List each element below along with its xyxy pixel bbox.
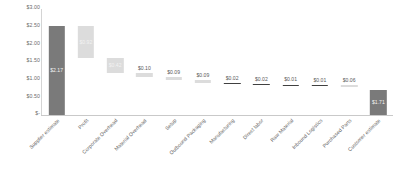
x-axis-category-label: Setup: [164, 118, 178, 132]
bar-value-label: $0.42: [109, 63, 122, 68]
bar-group: $0.01: [305, 9, 334, 115]
bar-delta: [136, 73, 152, 77]
bar-group: $0.01: [276, 9, 305, 115]
bar-delta: [195, 80, 211, 83]
bar-group: $0.06: [335, 9, 364, 115]
bar-delta: [312, 85, 328, 86]
bar-value-label: $0.09: [196, 73, 209, 78]
bar-value-label: $0.01: [313, 78, 326, 83]
bar-value-label: $2.17: [50, 68, 63, 73]
bar-delta: [341, 85, 357, 87]
y-axis-tick-label: $2.00: [6, 41, 40, 46]
y-axis-tick-label: $1.00: [6, 76, 40, 81]
bar-value-label: $0.06: [343, 78, 356, 83]
bar-group: $0.02: [247, 9, 276, 115]
x-axis-label-slot: Direct labor: [247, 116, 276, 174]
bar-group: $0.02: [218, 9, 247, 115]
bar-value-label: $0.02: [255, 77, 268, 82]
bar-delta: [224, 83, 240, 84]
bar-group: $0.42: [101, 9, 130, 115]
x-axis-label-slot: Manufacturing: [218, 116, 247, 174]
x-axis-category-label: Profit: [77, 118, 90, 131]
y-axis-tick-label: $3.00: [6, 5, 40, 10]
bar-delta: [282, 85, 298, 86]
x-axis-category-labels: Supplier estimateProfitCorporate Overhea…: [42, 116, 393, 174]
x-axis-label-slot: Material Overhead: [130, 116, 159, 174]
bar-value-label: $0.09: [167, 70, 180, 75]
bar-value-label: $0.01: [284, 77, 297, 82]
bar-group: $0.92: [71, 9, 100, 115]
y-axis-tick-label: $1.50: [6, 58, 40, 63]
x-axis-label-slot: Supplier estimate: [42, 116, 71, 174]
y-axis-tick-label: $-: [6, 111, 40, 116]
bar-group: $2.17: [42, 9, 71, 115]
bar-group: $1.71: [364, 9, 393, 115]
y-axis-tick-label: $2.50: [6, 23, 40, 28]
bar-delta: [253, 84, 269, 85]
bar-group: $0.09: [188, 9, 217, 115]
bar-group: $0.10: [130, 9, 159, 115]
x-axis-category-label: Direct labor: [243, 118, 266, 141]
bar-value-label: $0.92: [79, 40, 92, 45]
bar-delta: [165, 77, 181, 80]
bar-value-label: $0.02: [226, 76, 239, 81]
waterfall-chart: $3.00$2.50$2.00$1.50$1.00$0.50$- $2.17$0…: [0, 0, 400, 174]
plot-area: $2.17$0.92$0.42$0.10$0.09$0.09$0.02$0.02…: [42, 9, 393, 115]
bar-group: $0.09: [159, 9, 188, 115]
bar-value-label: $1.71: [372, 100, 385, 105]
y-axis-tick-label: $0.50: [6, 94, 40, 99]
y-axis: $3.00$2.50$2.00$1.50$1.00$0.50$-: [6, 8, 40, 114]
bar-value-label: $0.10: [138, 66, 151, 71]
x-axis-label-slot: Customer estimate: [364, 116, 393, 174]
x-axis-category-label: Supplier estimate: [28, 118, 61, 151]
